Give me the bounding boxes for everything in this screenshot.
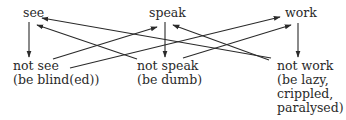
node-not-see: not see (be blind(ed)) — [13, 59, 99, 87]
node-see: see — [23, 6, 44, 20]
node-not-see-gloss: (be blind(ed)) — [13, 73, 99, 87]
verb-negation-diagram: see speak work not see (be blind(ed)) no… — [0, 0, 346, 120]
arrow-not-speak-to-see — [37, 25, 137, 59]
node-not-speak: not speak (be dumb) — [137, 59, 202, 87]
node-not-see-label: not see — [13, 59, 99, 73]
node-not-work-gloss-1: (be lazy, — [277, 73, 344, 87]
node-not-work-label: not work — [277, 59, 344, 73]
node-not-speak-label: not speak — [137, 59, 202, 73]
node-work: work — [285, 6, 317, 20]
node-not-work-gloss-3: paralysed) — [277, 101, 344, 115]
node-not-work: not work (be lazy, crippled, paralysed) — [277, 59, 344, 115]
arrow-not-speak-to-work — [183, 25, 291, 58]
node-speak: speak — [149, 6, 186, 20]
arrow-not-work-to-speak — [173, 25, 269, 60]
node-not-work-gloss-2: crippled, — [277, 87, 344, 101]
arrow-not-see-to-speak — [53, 27, 157, 59]
node-not-speak-gloss: (be dumb) — [137, 73, 202, 87]
